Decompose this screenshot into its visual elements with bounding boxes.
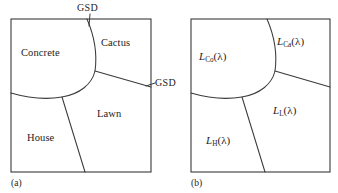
- radiance-arg-house: (λ): [217, 134, 230, 146]
- region-label-concrete-radiance: LCo(λ): [199, 51, 227, 64]
- radiance-subscript-cactus: Ca: [283, 41, 291, 49]
- radiance-arg-lawn: (λ): [284, 104, 297, 116]
- panel-a-caption: (a): [11, 179, 22, 189]
- panel-b-caption: (b): [191, 179, 202, 189]
- region-label-cactus: Cactus: [101, 38, 130, 49]
- panel-b: LCo(λ) LCa(λ) LL(λ) LH(λ) (b): [169, 0, 338, 193]
- radiance-subscript-concrete: Co: [205, 56, 213, 64]
- region-label-lawn-radiance: LL(λ): [273, 105, 297, 118]
- panel-b-diagram: [169, 0, 338, 193]
- panel-a-diagram: [0, 0, 169, 193]
- radiance-arg-cactus: (λ): [291, 35, 304, 47]
- region-label-concrete: Concrete: [21, 48, 60, 59]
- region-label-lawn: Lawn: [97, 109, 121, 120]
- region-label-house-radiance: LH(λ): [206, 135, 230, 148]
- figure-gsd-scene-partition: GSD GSD Concrete Cactus Lawn House (a) L…: [0, 0, 338, 193]
- radiance-arg-concrete: (λ): [214, 50, 227, 62]
- region-label-cactus-radiance: LCa(λ): [277, 36, 304, 49]
- panel-b-frame: [191, 19, 330, 172]
- panel-a: GSD GSD Concrete Cactus Lawn House (a): [0, 0, 169, 193]
- gsd-top-label: GSD: [77, 3, 98, 13]
- region-label-house: House: [27, 133, 54, 144]
